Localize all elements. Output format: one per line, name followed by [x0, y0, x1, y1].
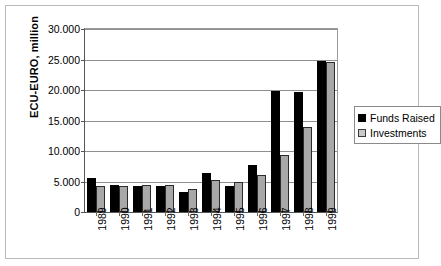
- y-tick-label: 10.000: [48, 145, 80, 157]
- y-tick-label: 0: [74, 206, 80, 218]
- y-tick-label: 25.000: [48, 54, 80, 66]
- x-label-cell: 1998: [292, 217, 315, 263]
- plot-area: 05.00010.00015.00020.00025.00030.000: [84, 28, 338, 213]
- x-tick-label: 1995: [234, 207, 246, 230]
- x-tick-label: 1999: [326, 207, 338, 230]
- bar-funds-raised[interactable]: [179, 192, 188, 212]
- legend-item[interactable]: Funds Raised: [358, 110, 435, 125]
- legend-swatch-inv: [358, 129, 366, 137]
- bar-group: [131, 29, 154, 212]
- bar-group: [85, 29, 108, 212]
- y-tick-label: 20.000: [48, 84, 80, 96]
- bar-funds-raised[interactable]: [133, 186, 142, 212]
- bar-group: [108, 29, 131, 212]
- legend-item[interactable]: Investments: [358, 125, 435, 140]
- bar-group: [154, 29, 177, 212]
- bar-investments[interactable]: [326, 62, 335, 212]
- x-label-cell: 1991: [130, 217, 153, 263]
- y-axis-title: ECU-EURO, million: [25, 0, 43, 147]
- x-tick-label: 1989: [96, 207, 108, 230]
- x-label-cell: 1992: [153, 217, 176, 263]
- bar-funds-raised[interactable]: [225, 186, 234, 212]
- y-tick-label: 30.000: [48, 23, 80, 35]
- bar-group: [314, 29, 337, 212]
- bar-funds-raised[interactable]: [248, 165, 257, 212]
- x-label-cell: 1994: [199, 217, 222, 263]
- bar-investments[interactable]: [280, 155, 289, 212]
- x-tick-label: 1990: [119, 207, 131, 230]
- bar-funds-raised[interactable]: [317, 61, 326, 212]
- x-axis-labels: 1989199019911992199319941995199619971998…: [84, 217, 338, 263]
- legend-label: Investments: [370, 127, 427, 139]
- bar-funds-raised[interactable]: [110, 185, 119, 212]
- y-tick-mark: [81, 212, 85, 213]
- legend-label: Funds Raised: [370, 112, 435, 124]
- x-tick-label: 1994: [211, 207, 223, 230]
- bar-group: [291, 29, 314, 212]
- bar-investments[interactable]: [303, 127, 312, 212]
- bar-group: [245, 29, 268, 212]
- x-label-cell: 1999: [315, 217, 338, 263]
- chart-frame: ECU-EURO, million 05.00010.00015.00020.0…: [5, 5, 419, 259]
- x-tick-label: 1997: [280, 207, 292, 230]
- chart-legend: Funds RaisedInvestments: [354, 106, 441, 144]
- y-tick-label: 5.000: [54, 176, 80, 188]
- bar-groups: [85, 29, 337, 212]
- x-label-cell: 1997: [269, 217, 292, 263]
- x-label-cell: 1996: [246, 217, 269, 263]
- x-label-cell: 1993: [176, 217, 199, 263]
- x-label-cell: 1989: [84, 217, 107, 263]
- x-label-cell: 1990: [107, 217, 130, 263]
- x-tick-label: 1993: [188, 207, 200, 230]
- bar-funds-raised[interactable]: [202, 173, 211, 212]
- x-tick-label: 1996: [257, 207, 269, 230]
- x-label-cell: 1995: [223, 217, 246, 263]
- bar-group: [268, 29, 291, 212]
- x-tick-label: 1998: [303, 207, 315, 230]
- bar-group: [222, 29, 245, 212]
- legend-swatch-raised: [358, 114, 366, 122]
- y-tick-label: 15.000: [48, 115, 80, 127]
- bar-group: [200, 29, 223, 212]
- bar-group: [177, 29, 200, 212]
- bar-funds-raised[interactable]: [294, 92, 303, 212]
- x-tick-label: 1992: [165, 207, 177, 230]
- bar-funds-raised[interactable]: [156, 186, 165, 212]
- x-tick-label: 1991: [142, 207, 154, 230]
- bar-funds-raised[interactable]: [271, 91, 280, 212]
